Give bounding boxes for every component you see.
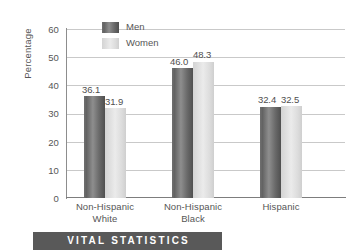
- bar-women-hispanic: [281, 106, 302, 198]
- y-tick-label-30: 30: [19, 108, 59, 119]
- y-tick-label-40: 40: [19, 80, 59, 91]
- y-tick-label-10: 10: [19, 165, 59, 176]
- x-category-label-hispanic: Hispanic: [221, 201, 341, 213]
- bar-men-non-hispanic-white: [84, 96, 105, 198]
- vital-statistics-banner-label: VITAL STATISTICS: [33, 232, 222, 250]
- value-label-women-hispanic: 32.5: [281, 94, 299, 105]
- legend-swatch-women-icon: [102, 38, 119, 49]
- bar-men-non-hispanic-black: [172, 68, 193, 198]
- legend-label-women: Women: [126, 37, 159, 48]
- value-label-men-hispanic: 32.4: [258, 94, 276, 105]
- bar-women-non-hispanic-black: [193, 62, 214, 198]
- value-label-men-non-hispanic-black: 46.0: [170, 56, 188, 67]
- y-tick-label-50: 50: [19, 52, 59, 63]
- x-category-line-2: Black: [133, 213, 253, 225]
- vital-statistics-bar-chart: Percentage 60 50 40 30 20 10 0 36.1 31.9…: [0, 0, 360, 250]
- bar-women-non-hispanic-white: [105, 108, 126, 198]
- value-label-men-non-hispanic-white: 36.1: [82, 84, 100, 95]
- plot-area: 36.1 31.9 46.0 48.3 32.4 32.5: [67, 29, 345, 198]
- value-label-women-non-hispanic-white: 31.9: [105, 96, 123, 107]
- x-category-line-1: Hispanic: [221, 201, 341, 213]
- y-tick-label-20: 20: [19, 137, 59, 148]
- value-label-women-non-hispanic-black: 48.3: [193, 49, 211, 60]
- vital-statistics-banner: VITAL STATISTICS: [33, 232, 222, 250]
- y-tick-label-60: 60: [19, 24, 59, 35]
- legend-swatch-men-icon: [102, 22, 119, 33]
- bar-men-hispanic: [260, 107, 281, 198]
- legend-label-men: Men: [126, 21, 144, 32]
